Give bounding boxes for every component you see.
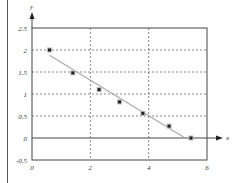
x-tick-label: 6 bbox=[205, 164, 209, 172]
fit-line bbox=[50, 55, 186, 138]
data-point-marker bbox=[48, 49, 51, 52]
y-tick-label: 2.5 bbox=[18, 25, 27, 33]
y-tick-label: 0 bbox=[24, 135, 28, 143]
y-tick-label: 2 bbox=[24, 47, 28, 55]
data-point-marker bbox=[98, 88, 101, 91]
x-axis-arrow-icon bbox=[216, 136, 223, 141]
y-axis-label: y bbox=[29, 3, 34, 11]
data-point-marker bbox=[71, 71, 74, 74]
data-point-marker bbox=[168, 125, 171, 128]
y-axis-arrow-icon bbox=[30, 12, 35, 19]
y-tick-label: 0.5 bbox=[18, 113, 27, 121]
scatter-chart: xy2.521.510.50-0.50246 bbox=[0, 0, 236, 183]
x-axis-label: x bbox=[225, 134, 230, 142]
x-tick-label: 0 bbox=[30, 164, 34, 172]
data-point-marker bbox=[118, 100, 121, 103]
data-point-marker bbox=[189, 137, 192, 140]
x-tick-label: 2 bbox=[89, 164, 93, 172]
y-tick-label: -0.5 bbox=[16, 157, 28, 165]
y-tick-label: 1 bbox=[24, 91, 28, 99]
data-point-marker bbox=[141, 112, 144, 115]
y-tick-label: 1.5 bbox=[18, 69, 27, 77]
x-tick-label: 4 bbox=[147, 164, 151, 172]
